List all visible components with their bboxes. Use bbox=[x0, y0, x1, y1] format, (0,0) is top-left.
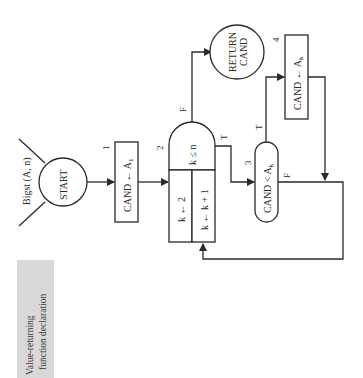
side-note-line1: Value-returning bbox=[25, 315, 35, 375]
step1-text: CAND ← A bbox=[122, 161, 133, 212]
step4-subscript: k bbox=[297, 56, 305, 60]
side-note-background bbox=[17, 260, 54, 378]
step3-subscript: k bbox=[267, 163, 275, 167]
step2-number: 2 bbox=[155, 146, 165, 151]
step4-number: 4 bbox=[271, 37, 281, 42]
function-signature: Bigst (A, n) bbox=[21, 158, 33, 206]
compare-true-label: T bbox=[254, 124, 264, 130]
loop-condition: k ≤ n bbox=[187, 145, 198, 166]
step4-text: CAND ← A bbox=[292, 59, 303, 110]
loop-true-label: T bbox=[219, 134, 229, 140]
step1-number: 1 bbox=[101, 146, 111, 151]
loop-init: k ← 2 bbox=[176, 197, 187, 222]
step1-subscript: 1 bbox=[127, 158, 135, 162]
loop-false-label: F bbox=[178, 107, 188, 112]
start-node: START bbox=[39, 158, 87, 206]
compare-false-label: F bbox=[282, 173, 292, 178]
arrow-compare-true-to-step4 bbox=[266, 77, 284, 142]
arrow-step4-to-merge bbox=[308, 77, 325, 180]
side-note: Value-returning function declaration bbox=[17, 260, 54, 378]
step3-number: 3 bbox=[243, 160, 253, 165]
side-note-line2: function declaration bbox=[38, 294, 48, 370]
step3-text: CAND < A bbox=[262, 167, 273, 213]
flowchart: Value-returning function declaration Big… bbox=[0, 0, 363, 378]
return-label-line2: CAND bbox=[238, 38, 249, 66]
loop-increment: k ← k + 1 bbox=[199, 189, 210, 230]
arrow-loop-false-to-return bbox=[192, 52, 211, 122]
start-label: START bbox=[58, 170, 69, 200]
return-node: RETURN CAND bbox=[210, 25, 264, 79]
return-label-line1: RETURN bbox=[227, 32, 238, 72]
